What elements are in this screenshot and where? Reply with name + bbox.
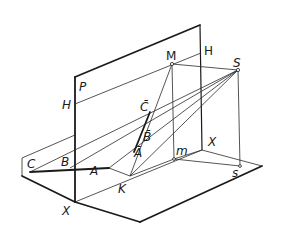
label-H-right: H	[204, 44, 213, 58]
ground-line-CBAK	[30, 168, 130, 176]
label-K: K	[118, 182, 127, 196]
label-B-bar: B̄	[143, 130, 151, 144]
label-H-left: H	[62, 98, 71, 112]
point-s-marker	[239, 165, 242, 168]
label-X-bottom: X	[61, 204, 71, 218]
trace-H-line	[75, 53, 201, 104]
label-A: A	[89, 164, 98, 178]
label-X-right: X	[207, 135, 217, 149]
label-C: C	[27, 157, 36, 171]
label-S: S	[233, 56, 241, 70]
projection-diagram: P H H M S m s X X C B A K C̄ B̄ Ā	[0, 0, 281, 233]
label-s: s	[232, 166, 238, 180]
label-A-bar: Ā	[133, 146, 142, 160]
label-C-bar: C̄	[140, 100, 149, 114]
label-M: M	[166, 49, 176, 63]
label-P: P	[79, 80, 87, 94]
label-m: m	[176, 144, 188, 158]
label-B: B	[61, 155, 69, 169]
point-m-marker	[173, 158, 176, 161]
